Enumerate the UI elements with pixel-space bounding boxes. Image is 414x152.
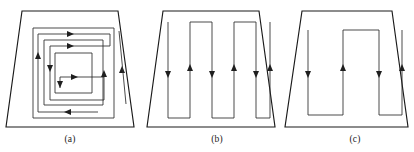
arrow-right-a2 [67, 43, 74, 49]
arrow-up-a1 [35, 52, 41, 59]
figure-canvas [0, 0, 414, 152]
arrow-down-b1 [165, 71, 171, 78]
panel-b-arrowheads [165, 64, 273, 78]
panel-a-caption: (a) [40, 133, 100, 145]
panel-c-group [285, 11, 408, 127]
panel-c-caption: (c) [325, 133, 385, 145]
arrow-left-a1 [64, 109, 71, 115]
coverage-path-planning-figure: (a) (b) (c) [0, 0, 414, 152]
arrow-right-a3 [71, 74, 78, 80]
arrow-up-b3 [267, 64, 273, 71]
panel-b-coverage-path [168, 22, 270, 118]
arrow-down-c2 [376, 71, 382, 78]
panel-a-group [6, 11, 134, 127]
arrow-up-b2 [231, 64, 237, 71]
arrow-up-b1 [187, 64, 193, 71]
arrow-down-a1 [47, 65, 53, 72]
arrow-down-b3 [253, 71, 259, 78]
arrow-up-c1 [340, 64, 346, 71]
arrow-up-a3 [119, 66, 125, 73]
arrow-down-c1 [305, 71, 311, 78]
panel-c-coverage-path [308, 30, 402, 115]
arrow-up-a2 [101, 70, 107, 77]
panel-b-caption: (b) [187, 133, 247, 145]
panel-a-arrowheads [35, 31, 125, 115]
panel-b-group [147, 11, 275, 127]
panel-a-coverage-path [33, 28, 114, 118]
arrow-down-a2 [57, 81, 63, 88]
panel-c-arrowheads [305, 64, 405, 78]
arrow-down-b2 [209, 71, 215, 78]
panel-c-boundary-trapezoid [285, 11, 408, 127]
arrow-right-a1 [67, 31, 74, 37]
